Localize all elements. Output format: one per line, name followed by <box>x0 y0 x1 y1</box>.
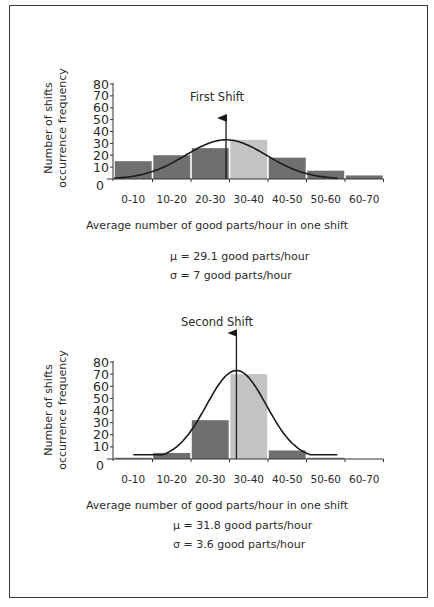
first-shift-title: First Shift <box>190 90 244 104</box>
second-shift-bar <box>153 453 190 459</box>
first-shift-y-tick-label: 80 <box>93 77 109 92</box>
second-shift-xlabel: Average number of good parts/hour in one… <box>86 499 349 512</box>
first-shift-bar <box>269 158 306 179</box>
first-shift-x-tick-label: 20-30 <box>195 193 226 205</box>
second-shift-x-tick-label: 0-10 <box>121 473 145 485</box>
second-shift-x-tick-label: 10-20 <box>156 473 187 485</box>
second-shift-ylabel-line: occurrence frequency <box>56 350 69 470</box>
first-shift-ylabel-line: Number of shifts <box>42 82 55 174</box>
second-shift-x-tick-label: 30-40 <box>233 473 264 485</box>
second-shift-x-tick-label: 50-60 <box>310 473 341 485</box>
second-shift-bar <box>192 420 229 459</box>
second-shift-bar <box>269 451 306 459</box>
first-shift-std-label: σ = 7 good parts/hour <box>170 269 292 282</box>
second-shift-ylabel-line: Number of shifts <box>42 364 55 456</box>
first-shift-x-tick-label: 30-40 <box>233 193 264 205</box>
first-shift-x-tick-label: 0-10 <box>121 193 145 205</box>
first-shift-y-tick-label: 0 <box>96 178 104 193</box>
second-shift-x-tick-label: 20-30 <box>195 473 226 485</box>
second-shift-title: Second Shift <box>181 315 254 329</box>
first-shift-ylabel-line: occurrence frequency <box>56 68 69 188</box>
charts-canvas: First ShiftNumber of shiftsoccurrence fr… <box>0 0 434 607</box>
second-shift-mean-label: μ = 31.8 good parts/hour <box>173 519 313 532</box>
first-shift-x-tick-label: 60-70 <box>349 193 380 205</box>
first-shift-x-tick-label: 10-20 <box>156 193 187 205</box>
second-shift-x-tick-label: 60-70 <box>349 473 380 485</box>
first-shift-xlabel: Average number of good parts/hour in one… <box>86 219 349 232</box>
second-shift-std-label: σ = 3.6 good parts/hour <box>173 538 306 551</box>
second-shift-y-tick-label: 80 <box>93 355 109 370</box>
second-shift-x-tick-label: 40-50 <box>272 473 303 485</box>
first-shift-x-tick-label: 50-60 <box>310 193 341 205</box>
first-shift-mean-label: μ = 29.1 good parts/hour <box>170 250 310 263</box>
second-shift-y-tick-label: 0 <box>96 458 104 473</box>
first-shift-bar <box>153 155 190 179</box>
first-shift-bar <box>192 148 229 179</box>
first-shift-x-tick-label: 40-50 <box>272 193 303 205</box>
